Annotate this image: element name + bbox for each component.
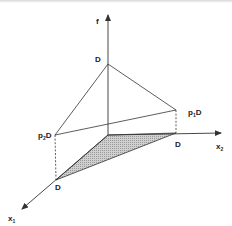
geometry-diagram: f D p1D p2D D D x2 x1 [0, 0, 232, 226]
p1D-label: p1D [188, 108, 202, 118]
f-axis-label: f [96, 17, 99, 26]
x2-axis-label: x2 [216, 142, 223, 152]
shaded-base-triangle [56, 133, 176, 180]
edge-apex-to-p2D [55, 64, 108, 135]
apex-label: D [95, 55, 101, 64]
x1-axis [22, 135, 108, 209]
edge-p2D-to-p1D [55, 110, 176, 135]
x1-axis-label: x1 [8, 214, 15, 224]
base-right-label: D [175, 140, 181, 149]
p2D-label: p2D [38, 131, 52, 141]
edge-apex-to-p1D [108, 64, 176, 110]
dashed-p2D-to-base [55, 135, 56, 180]
base-front-label: D [55, 183, 61, 192]
